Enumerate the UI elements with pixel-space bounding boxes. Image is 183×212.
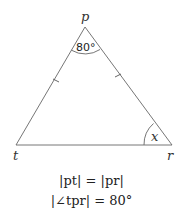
equation-sides-equal: |pt| = |pr|: [0, 173, 183, 188]
equation-angle: |∠tpr| = 80°: [0, 193, 183, 208]
angle-label-p: 80°: [76, 41, 96, 54]
vertex-label-p: p: [81, 9, 90, 24]
angle-label-x: x: [151, 129, 159, 144]
vertex-label-r: r: [167, 148, 174, 163]
vertex-label-t: t: [13, 148, 19, 163]
tick-mark-pr: [115, 74, 121, 77]
